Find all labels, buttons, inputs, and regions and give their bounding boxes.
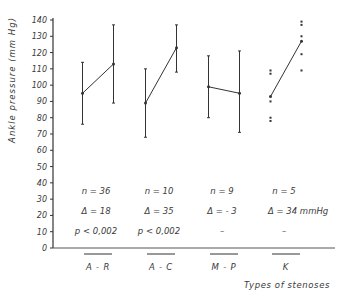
stats-annotations: n = 36Δ = 18p < 0,002n = 10Δ = 35p < 0,0… (74, 186, 329, 236)
y-axis: 0102030405060708090100110120130140 (32, 16, 53, 253)
mean-point (207, 85, 210, 88)
stat-delta: Δ = 34 mmHg (267, 206, 329, 216)
stat-p: – (282, 226, 286, 236)
mean-connector (146, 48, 177, 103)
y-tick-label: 10 (37, 228, 47, 237)
y-tick-label: 120 (32, 49, 47, 58)
mean-point (269, 95, 272, 98)
category-label: A - R (85, 262, 110, 272)
mean-point (175, 46, 178, 49)
mean-connector (83, 64, 114, 93)
y-tick-label: 30 (37, 195, 47, 204)
data-point (270, 69, 272, 71)
data-point (301, 35, 303, 37)
data-point (270, 73, 272, 75)
y-tick-label: 110 (32, 65, 47, 74)
stat-p: – (220, 226, 224, 236)
y-tick-label: 0 (42, 244, 47, 253)
y-axis-label: Ankle pressure (mm Hg) (7, 17, 17, 144)
stat-delta: Δ = 18 (80, 206, 111, 216)
mean-connector (209, 87, 240, 94)
data-point (301, 69, 303, 71)
stat-n: n = 9 (210, 186, 233, 196)
y-tick-label: 140 (32, 16, 47, 25)
data-point (270, 117, 272, 119)
mean-point (238, 92, 241, 95)
stat-n: n = 10 (145, 186, 174, 196)
mean-point (300, 40, 303, 43)
stat-n: n = 36 (82, 186, 111, 196)
plot-area (81, 21, 303, 138)
stat-p: p < 0,002 (74, 226, 117, 236)
y-tick-label: 80 (37, 114, 47, 123)
stat-n: n = 5 (272, 186, 295, 196)
y-tick-label: 40 (37, 179, 47, 188)
y-tick-label: 60 (37, 146, 47, 155)
y-tick-label: 100 (32, 81, 47, 90)
group-k (269, 21, 303, 122)
group-m-p (207, 51, 241, 132)
x-axis: A - RA - CM - PK (53, 248, 335, 272)
y-tick-label: 20 (37, 211, 47, 220)
mean-point (81, 92, 84, 95)
stat-delta: Δ = - 3 (206, 206, 237, 216)
category-label: A - C (148, 262, 173, 272)
y-tick-label: 130 (32, 32, 47, 41)
mean-point (112, 62, 115, 65)
mean-connector (271, 41, 302, 96)
group-a-r (81, 25, 115, 124)
x-axis-label: Types of stenoses (244, 280, 330, 290)
data-point (301, 53, 303, 55)
category-label: M - P (212, 262, 237, 272)
data-point (301, 24, 303, 26)
mean-point (144, 102, 147, 105)
category-label: K (283, 262, 290, 272)
y-tick-label: 70 (37, 130, 47, 139)
data-point (270, 100, 272, 102)
stat-p: p < 0,002 (137, 226, 180, 236)
y-tick-label: 50 (37, 163, 47, 172)
stat-delta: Δ = 35 (143, 206, 173, 216)
group-a-c (144, 25, 178, 137)
ankle-pressure-chart: 0102030405060708090100110120130140 A - R… (0, 0, 345, 298)
data-point (270, 120, 272, 122)
y-tick-label: 90 (37, 97, 47, 106)
data-point (301, 21, 303, 23)
